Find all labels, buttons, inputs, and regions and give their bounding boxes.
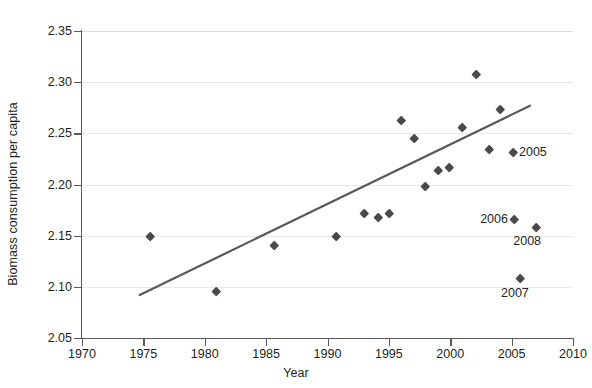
x-tick-label: 1990 [303,347,353,361]
y-tick-label: 2.10 [36,280,72,294]
point-annotation: 2007 [501,286,529,300]
x-tick-label: 1980 [180,347,230,361]
trend-line [82,31,573,338]
y-tick-label: 2.30 [36,75,72,89]
y-tick-label: 2.35 [36,24,72,38]
x-tick-mark [328,339,329,346]
y-tick-mark [74,338,82,339]
x-tick-label: 2005 [487,347,537,361]
y-tick-mark [74,133,82,134]
y-axis-title: Biomass consumption per capita [0,0,26,388]
x-tick-label: 2000 [425,347,475,361]
x-tick-mark [82,339,83,346]
y-tick-mark [74,31,82,32]
point-annotation: 2006 [480,212,508,226]
point-annotation: 2008 [513,234,541,248]
y-tick-mark [74,236,82,237]
y-tick-mark [74,185,82,186]
x-tick-label: 2010 [548,347,592,361]
x-tick-label: 1970 [57,347,107,361]
plot-area: 2005200620082007 [82,31,573,338]
x-tick-label: 1995 [364,347,414,361]
x-tick-mark [450,339,451,346]
y-tick-mark [74,82,82,83]
y-tick-label: 2.25 [36,126,72,140]
x-tick-mark [512,339,513,346]
point-annotation: 2005 [519,145,547,159]
x-tick-mark [143,339,144,346]
x-tick-label: 1975 [118,347,168,361]
scatter-chart-figure: Biomass consumption per capita Year 2005… [0,0,592,388]
y-tick-label: 2.15 [36,229,72,243]
x-tick-mark [205,339,206,346]
x-tick-label: 1985 [241,347,291,361]
x-tick-mark [573,339,574,346]
y-tick-label: 2.20 [36,178,72,192]
x-tick-mark [389,339,390,346]
x-tick-mark [266,339,267,346]
y-tick-mark [74,287,82,288]
y-tick-label: 2.05 [36,331,72,345]
x-axis-title: Year [0,366,592,380]
